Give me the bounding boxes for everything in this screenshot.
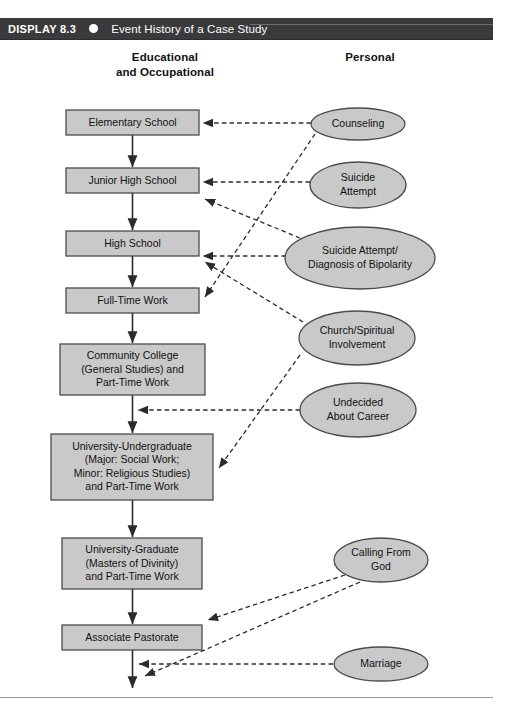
node-box-label-b2: Junior High School (88, 173, 176, 185)
process-boxes-group: Elementary SchoolJunior High SchoolHigh … (51, 110, 213, 650)
personal-event-ellipses-group: CounselingSuicideAttemptSuicide Attempt/… (285, 108, 435, 681)
node-box-b2: Junior High School (66, 168, 199, 193)
node-box-b8: Associate Pastorate (62, 625, 202, 650)
dashed-edge-church-to-university-undergraduate (219, 355, 300, 468)
node-ellipse-e6: Calling FromGod (334, 538, 428, 582)
node-box-b5: Community College(General Studies) andPa… (60, 344, 205, 395)
node-box-label-b6: University-Undergraduate(Major: Social W… (72, 440, 192, 492)
event-history-diagram: Elementary SchoolJunior High SchoolHigh … (0, 0, 511, 710)
node-box-b3: High School (66, 231, 199, 256)
node-box-label-b4: Full-Time Work (97, 293, 168, 305)
node-ellipse-label-e7: Marriage (360, 657, 402, 669)
node-box-b1: Elementary School (66, 110, 199, 135)
node-ellipse-label-e1: Counseling (332, 117, 385, 129)
node-ellipse-e1: Counseling (311, 108, 405, 140)
node-ellipse-e3: Suicide Attempt/Diagnosis of Bipolarity (285, 227, 435, 289)
node-ellipse-label-e2: SuicideAttempt (340, 171, 376, 196)
node-box-label-b7: University-Graduate(Masters of Divinity)… (85, 543, 179, 581)
node-box-b4: Full-Time Work (66, 288, 199, 313)
node-ellipse-e5: UndecidedAbout Career (300, 383, 416, 437)
node-box-label-b5: Community College(General Studies) andPa… (81, 349, 184, 387)
node-box-b7: University-Graduate(Masters of Divinity)… (62, 538, 202, 589)
display-figure: DISPLAY 8.3 Event History of a Case Stud… (0, 0, 511, 710)
node-ellipse-label-e5: UndecidedAbout Career (327, 396, 390, 421)
footer-hairline (0, 697, 493, 698)
node-ellipse-e7: Marriage (334, 647, 428, 681)
node-box-b6: University-Undergraduate(Major: Social W… (51, 434, 213, 500)
node-ellipse-e4: Church/SpiritualInvolvement (299, 311, 415, 365)
dashed-edge-church-to-high-school (205, 262, 303, 322)
node-box-label-b3: High School (104, 236, 161, 248)
node-ellipse-label-e3: Suicide Attempt/Diagnosis of Bipolarity (308, 244, 413, 269)
node-box-label-b1: Elementary School (88, 115, 176, 127)
node-ellipse-e2: SuicideAttempt (310, 162, 406, 208)
node-ellipse-label-e4: Church/SpiritualInvolvement (320, 324, 395, 349)
dashed-edge-bipolarity-to-junior-high-school (205, 199, 300, 238)
node-box-label-b8: Associate Pastorate (85, 630, 179, 642)
